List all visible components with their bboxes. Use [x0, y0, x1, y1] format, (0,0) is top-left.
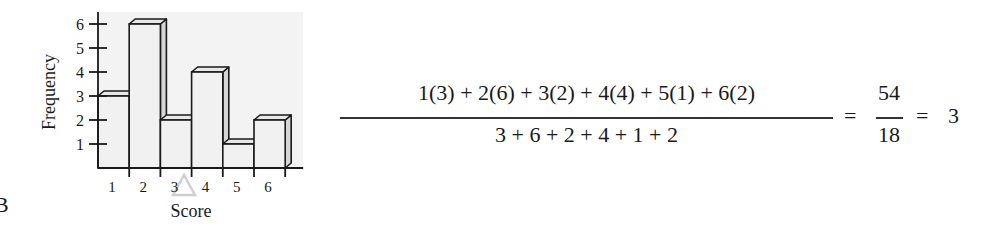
- result-value: 3: [948, 103, 959, 129]
- histogram-chart: 123456123456 Frequency Score: [0, 0, 330, 227]
- y-axis-label: Frequency: [39, 54, 59, 130]
- x-tick-label: 6: [264, 179, 272, 195]
- equals-sign: =: [916, 103, 928, 129]
- y-tick-label: 5: [76, 40, 84, 57]
- y-tick-label: 2: [76, 112, 84, 129]
- result-fraction-bar: [876, 117, 903, 119]
- y-tick-label: 1: [76, 136, 84, 153]
- equals-sign: =: [844, 103, 856, 129]
- x-tick-label: 5: [233, 179, 241, 195]
- x-tick-label: 1: [108, 179, 116, 195]
- y-tick-label: 6: [76, 16, 84, 33]
- x-tick-label: 2: [139, 179, 147, 195]
- fraction-denominator: 3 + 6 + 2 + 4 + 1 + 2: [340, 122, 833, 148]
- bar: [254, 115, 291, 168]
- result-denominator: 18: [874, 122, 904, 148]
- x-axis-label: Score: [171, 201, 212, 221]
- x-tick-label: 3: [171, 179, 179, 195]
- y-tick-label: 3: [76, 88, 84, 105]
- fraction-bar: [340, 117, 833, 119]
- fraction-numerator: 1(3) + 2(6) + 3(2) + 4(4) + 5(1) + 6(2): [340, 80, 833, 106]
- x-tick-label: 4: [202, 179, 210, 195]
- y-tick-label: 4: [76, 64, 84, 81]
- result-numerator: 54: [874, 80, 904, 106]
